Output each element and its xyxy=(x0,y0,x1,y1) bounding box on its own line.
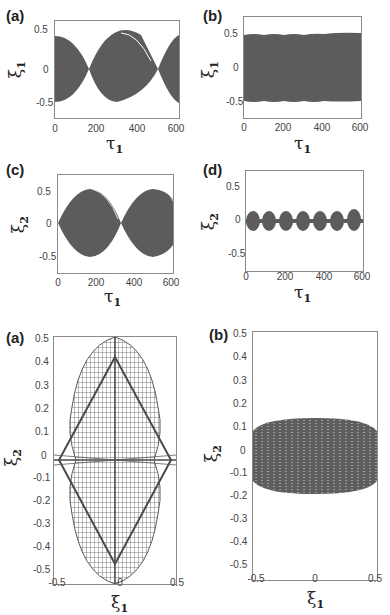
x-tick: 600 xyxy=(168,123,185,134)
phase-portrait-trace xyxy=(253,332,377,580)
panel-label: (c) xyxy=(6,161,24,178)
y-tick: -0.3 xyxy=(230,513,247,524)
x-tick: 0.5 xyxy=(170,577,184,588)
panel-label: (a) xyxy=(6,329,24,346)
y-tick: -0.1 xyxy=(230,467,247,478)
y-axis-label: ξ2 xyxy=(201,445,224,462)
x-tick: 400 xyxy=(126,277,143,288)
x-tick: 0 xyxy=(241,122,247,133)
panel-label: (d) xyxy=(203,161,222,178)
y-tick: 0 xyxy=(43,64,49,75)
panel-label: (b) xyxy=(203,7,222,24)
x-tick: -0.5 xyxy=(48,577,65,588)
y-tick: 0 xyxy=(240,445,246,456)
time-series-trace xyxy=(246,171,363,271)
y-tick: -0.3 xyxy=(33,518,50,529)
y-tick: -0.4 xyxy=(33,541,50,552)
time-series-trace xyxy=(58,175,173,273)
y-tick: 0.4 xyxy=(233,351,247,362)
y-tick: 0.1 xyxy=(233,421,247,432)
y-tick: -0.5 xyxy=(230,559,247,570)
y-axis-label: ξ2 xyxy=(8,216,31,233)
plot-area xyxy=(252,331,378,581)
panel-label: (b) xyxy=(209,326,228,343)
y-tick: 0.5 xyxy=(233,328,247,339)
phase-portrait-trace xyxy=(54,337,176,584)
y-tick: -0.1 xyxy=(33,472,50,483)
x-tick: 0.5 xyxy=(368,573,382,584)
y-tick: -0.5 xyxy=(39,251,56,262)
x-tick: 400 xyxy=(316,271,333,282)
y-tick: 0.1 xyxy=(35,426,49,437)
x-tick: 200 xyxy=(277,271,294,282)
x-axis-label: ξ1 xyxy=(307,588,324,611)
y-tick: -0.2 xyxy=(230,490,247,501)
y-tick: 0.3 xyxy=(35,380,49,391)
plot-area xyxy=(53,336,177,585)
time-series-trace xyxy=(55,21,179,118)
plot-area xyxy=(243,16,362,119)
x-tick: 0 xyxy=(117,577,123,588)
y-tick: 0 xyxy=(233,62,239,73)
x-tick: 200 xyxy=(275,122,292,133)
x-tick: 0 xyxy=(312,573,318,584)
y-tick: 0.3 xyxy=(233,375,247,386)
y-tick: -0.5 xyxy=(33,564,50,575)
plot-area xyxy=(57,174,174,274)
y-axis-label: ξ1 xyxy=(198,61,221,78)
y-tick: -0.5 xyxy=(226,96,243,107)
x-tick: 400 xyxy=(314,122,331,133)
y-tick: 0.5 xyxy=(37,186,51,197)
x-tick: 200 xyxy=(88,123,105,134)
plot-area xyxy=(245,170,364,272)
y-tick: 0.2 xyxy=(35,403,49,414)
x-tick: 400 xyxy=(129,123,146,134)
y-axis-label: ξ1 xyxy=(5,61,28,78)
y-tick: 0 xyxy=(46,218,52,229)
x-axis-label: τ1 xyxy=(104,286,121,309)
x-tick: 0 xyxy=(55,277,61,288)
x-axis-label: ξ1 xyxy=(111,592,128,615)
x-tick: 600 xyxy=(163,277,180,288)
y-tick: 0.4 xyxy=(35,356,49,367)
y-tick: 0 xyxy=(41,450,47,461)
panel-label: (a) xyxy=(6,7,24,24)
y-tick: -0.4 xyxy=(230,536,247,547)
y-tick: 0.5 xyxy=(226,181,240,192)
x-tick: 600 xyxy=(354,271,371,282)
y-tick: -0.5 xyxy=(36,97,53,108)
x-tick: 600 xyxy=(352,122,369,133)
x-axis-label: τ1 xyxy=(294,133,311,156)
x-axis-label: τ1 xyxy=(294,282,311,305)
x-tick: 200 xyxy=(88,277,105,288)
y-tick: -0.2 xyxy=(33,495,50,506)
y-tick: 0.5 xyxy=(35,333,49,344)
plot-area xyxy=(54,20,180,119)
y-tick: -0.5 xyxy=(228,248,245,259)
time-series-trace xyxy=(244,17,361,118)
y-tick: 0.2 xyxy=(233,398,247,409)
x-tick: 0 xyxy=(52,123,58,134)
y-axis-label: ξ2 xyxy=(1,449,24,466)
y-axis-label: ξ2 xyxy=(198,213,221,230)
x-axis-label: τ1 xyxy=(106,133,123,156)
x-tick: 0 xyxy=(243,271,249,282)
y-tick: 0.5 xyxy=(34,24,48,35)
y-tick: 0 xyxy=(235,214,241,225)
y-tick: 0.5 xyxy=(224,28,238,39)
x-tick: -0.5 xyxy=(247,573,264,584)
